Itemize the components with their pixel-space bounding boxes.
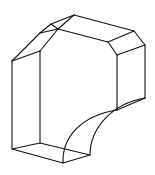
right-chamfer	[108, 31, 145, 55]
right-bottom-edge	[117, 98, 145, 110]
wireframe-drawing	[0, 0, 155, 175]
elbow-block-wireframe	[0, 0, 155, 175]
top-back-chamfer-edge	[40, 15, 74, 51]
top-front-chamfer-edge	[12, 15, 74, 61]
top-ridge-edge	[74, 15, 134, 31]
chamfer-cross-edge-2	[51, 24, 58, 29]
top-inner-edge	[58, 29, 108, 42]
left-chamfer-front	[12, 51, 40, 61]
bottom-face	[12, 143, 90, 163]
